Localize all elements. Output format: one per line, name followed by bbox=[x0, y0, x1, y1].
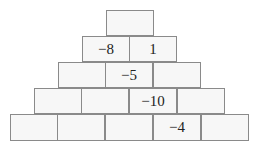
pyramid-cell-r4-c2[interactable] bbox=[81, 88, 129, 114]
pyramid-cell-r3-c2[interactable]: −5 bbox=[105, 62, 153, 88]
pyramid-cell-r2-c2[interactable]: 1 bbox=[129, 36, 177, 62]
pyramid-cell-r5-c1[interactable] bbox=[10, 114, 58, 141]
pyramid-cell-r4-c4[interactable] bbox=[177, 88, 225, 114]
pyramid-cell-r4-c1[interactable] bbox=[34, 88, 82, 114]
pyramid-cell-r1-c1[interactable] bbox=[106, 10, 154, 36]
pyramid-cell-r5-c4[interactable]: −4 bbox=[153, 114, 201, 141]
pyramid-cell-r5-c5[interactable] bbox=[201, 114, 249, 141]
pyramid-cell-r5-c3[interactable] bbox=[105, 114, 153, 141]
pyramid-cell-r2-c1[interactable]: −8 bbox=[82, 36, 130, 62]
number-pyramid: −8 1 −5 −10 −4 bbox=[0, 0, 258, 152]
pyramid-cell-r5-c2[interactable] bbox=[57, 114, 105, 141]
pyramid-cell-r3-c1[interactable] bbox=[58, 62, 106, 88]
pyramid-cell-r3-c3[interactable] bbox=[153, 62, 201, 88]
pyramid-cell-r4-c3[interactable]: −10 bbox=[129, 88, 177, 114]
